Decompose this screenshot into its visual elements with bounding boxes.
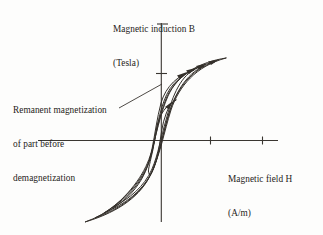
y-axis-label: Magnetic induction B (Tesla) [113,2,195,92]
annotation-line1: Remanent magnetization [13,105,107,116]
annotation-line3: demagnetization [13,173,107,184]
x-axis-label: Magnetic field H (A/m) [228,152,292,235]
y-axis-label-line1: Magnetic induction B [113,24,195,35]
x-axis-label-line2: (A/m) [228,208,292,219]
y-axis-label-line2: (Tesla) [113,58,195,69]
annotation-line2: of part before [13,139,107,150]
hysteresis-figure: Magnetic induction B (Tesla) Magnetic fi… [0,0,323,235]
x-axis-label-line1: Magnetic field H [228,174,292,185]
remanent-magnetization-annotation: Remanent magnetization of part before de… [13,83,107,206]
